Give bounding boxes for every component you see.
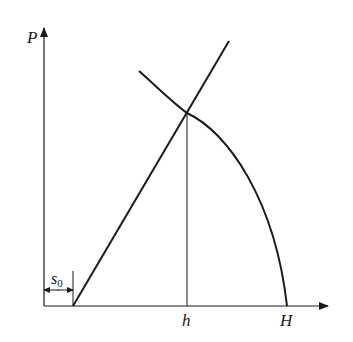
s0-label: s0: [51, 270, 63, 289]
diagram-canvas: P s0 h H: [0, 0, 353, 342]
s0-label-subscript: 0: [57, 277, 63, 289]
H-label: H: [279, 311, 294, 330]
h-label: h: [182, 311, 191, 330]
y-axis-label: P: [26, 28, 37, 47]
descending-curve: [139, 71, 287, 306]
